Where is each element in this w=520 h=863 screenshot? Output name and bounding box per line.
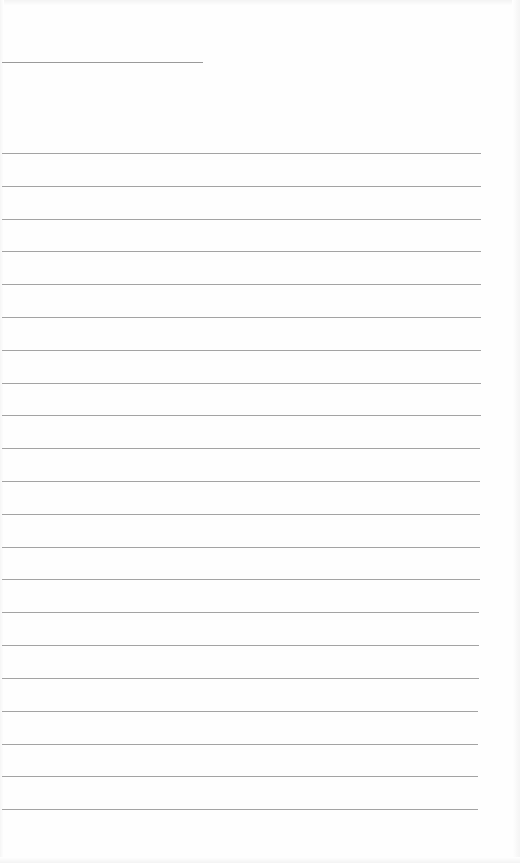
ruled-line [2,579,480,580]
ruled-line [2,678,479,679]
ruled-line [2,284,481,285]
page-bottom-edge [0,857,520,863]
ruled-line [2,776,478,777]
ruled-line [2,186,481,187]
ruled-line [2,744,478,745]
ruled-line [2,448,480,449]
ruled-line [2,219,481,220]
page-left-edge [0,0,4,863]
page-top-edge [0,0,520,6]
ruled-line [2,317,481,318]
ruled-line [2,809,478,810]
ruled-line [2,645,479,646]
header-rule-line [2,62,203,63]
ruled-line [2,481,480,482]
ruled-line [2,514,480,515]
page-right-edge [512,0,520,863]
ruled-line [2,415,481,416]
ruled-line [2,153,481,154]
ruled-line [2,251,481,252]
ruled-line [2,547,480,548]
ruled-paper-page [0,0,520,863]
ruled-line [2,350,481,351]
ruled-line [2,711,478,712]
ruled-line [2,383,481,384]
ruled-line [2,612,479,613]
